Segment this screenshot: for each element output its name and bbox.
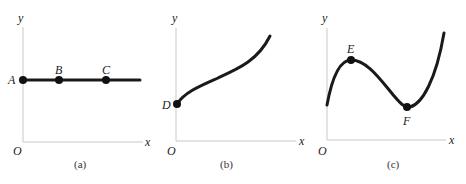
panel-c: y x O E F (c) [318,11,455,171]
point-f [403,103,411,111]
point-d-label: D [161,98,171,112]
point-e [347,56,355,64]
origin-label: O [318,144,327,158]
point-c-label: C [102,63,111,77]
cubic-curve [327,33,444,107]
panel-a: y x O A B C (a) [7,11,151,171]
x-axis-label: x [448,133,455,147]
increasing-curve [177,36,270,104]
point-b-label: B [55,63,63,77]
point-f-label: F [402,114,411,128]
point-c [102,76,110,84]
caption-a: (a) [74,158,87,171]
origin-label: O [13,144,22,158]
figure: y x O A B C (a) y x O D (b) y x O E F (c… [0,0,466,184]
y-axis-label: y [321,11,328,25]
point-a [19,76,27,84]
origin-label: O [167,144,176,158]
point-e-label: E [346,42,355,56]
point-b [55,76,63,84]
panel-b: y x O D (b) [161,11,305,171]
x-axis-label: x [144,135,151,149]
caption-b: (b) [220,158,233,171]
x-axis-label: x [298,134,305,148]
point-d [173,100,181,108]
y-axis-label: y [171,11,178,25]
point-a-label: A [7,73,16,87]
y-axis-label: y [17,11,24,25]
caption-c: (c) [387,158,400,171]
